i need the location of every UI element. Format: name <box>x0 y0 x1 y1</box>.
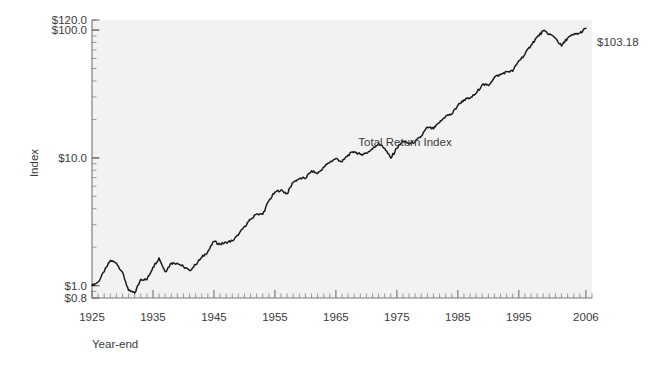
plot-background <box>92 20 592 298</box>
y-axis-title: Index <box>28 149 40 177</box>
series-label: Total Return Index <box>358 136 452 148</box>
x-tick-label: 1955 <box>262 311 288 323</box>
x-tick-label: 1965 <box>323 311 349 323</box>
x-tick-label: 1975 <box>384 311 410 323</box>
total-return-index-chart: $120.0$100.0$10.0$1.0$0.8 19251935194519… <box>0 0 656 373</box>
chart-canvas: $120.0$100.0$10.0$1.0$0.8 19251935194519… <box>0 0 656 373</box>
y-tick-label: $0.8 <box>65 292 87 304</box>
endpoint-value-label: $103.18 <box>597 36 639 48</box>
x-tick-label: 1995 <box>506 311 532 323</box>
x-tick-label: 1935 <box>140 311 166 323</box>
x-tick-label: 1945 <box>201 311 227 323</box>
x-axis-title: Year-end <box>92 338 138 350</box>
y-tick-label: $100.0 <box>52 24 87 36</box>
x-tick-label: 2006 <box>573 311 599 323</box>
y-tick-label: $10.0 <box>58 152 87 164</box>
y-tick-label: $1.0 <box>65 280 87 292</box>
x-tick-label: 1925 <box>79 311 105 323</box>
x-tick-label: 1985 <box>445 311 471 323</box>
x-tick-labels: 192519351945195519651975198519952006 <box>79 311 598 323</box>
